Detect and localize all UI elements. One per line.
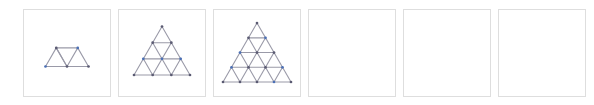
triangular-lattice-figure-1: [24, 10, 110, 96]
lattice-edges-1: [46, 47, 89, 66]
panel-6[interactable]: [498, 9, 586, 97]
panel-5[interactable]: [403, 9, 491, 97]
panel-2[interactable]: [118, 9, 206, 97]
panel-strip: [0, 0, 594, 105]
triangular-lattice-figure-3: [214, 10, 300, 96]
image-sequence-stage: [0, 0, 594, 105]
panel-1[interactable]: [23, 9, 111, 97]
lattice-vertices-2: [133, 25, 192, 76]
lattice-vertices-3: [222, 21, 293, 83]
panel-3[interactable]: [213, 9, 301, 97]
panel-4[interactable]: [308, 9, 396, 97]
lattice-edges-2: [134, 26, 190, 74]
triangular-lattice-figure-2: [119, 10, 205, 96]
